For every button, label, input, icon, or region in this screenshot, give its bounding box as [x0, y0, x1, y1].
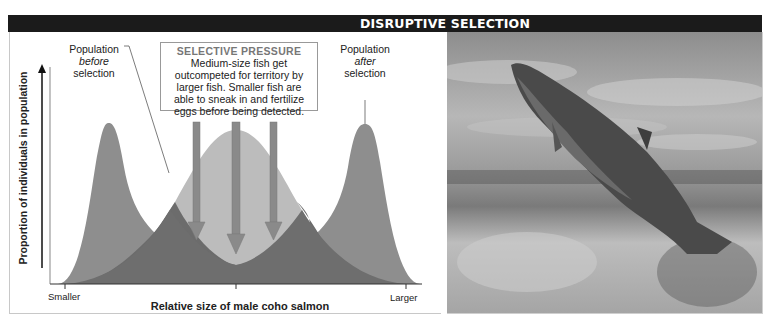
leaping-salmon-image — [447, 32, 762, 313]
pressure-title: SELECTIVE PRESSURE — [161, 45, 317, 57]
pressure-line-1: Medium-size fish get — [161, 57, 317, 69]
pressure-line-4: able to sneak in and fertilize — [161, 93, 317, 105]
pressure-line-2: outcompeted for territory by — [161, 69, 317, 81]
after-label-line2: after — [330, 55, 400, 67]
after-label-line3: selection — [330, 67, 400, 79]
before-selection-label: Population before selection — [59, 43, 129, 79]
y-axis-arrow-icon — [38, 64, 46, 73]
pressure-line-3: larger fish. Smaller fish are — [161, 81, 317, 93]
figure-caption-cropped — [60, 326, 360, 333]
before-label-line2: before — [59, 55, 129, 67]
pressure-line-5: eggs before being detected. — [161, 105, 317, 117]
selective-pressure-box: SELECTIVE PRESSURE Medium-size fish get … — [160, 42, 318, 111]
before-label-line3: selection — [59, 67, 129, 79]
chart-panel: SELECTIVE PRESSURE Medium-size fish get … — [9, 32, 441, 314]
after-label-line1: Population — [330, 43, 400, 55]
x-tick-smaller: Smaller — [48, 291, 80, 302]
before-label-line1: Population — [59, 43, 129, 55]
y-axis-label: Proportion of individuals in population — [17, 63, 29, 273]
x-tick-larger: Larger — [390, 292, 417, 303]
figure-title: DISRUPTIVE SELECTION — [360, 16, 530, 31]
after-selection-label: Population after selection — [330, 43, 400, 79]
x-axis-label: Relative size of male coho salmon — [130, 300, 350, 312]
figure-header: DISRUPTIVE SELECTION — [8, 15, 762, 32]
salmon-photo — [447, 32, 763, 314]
